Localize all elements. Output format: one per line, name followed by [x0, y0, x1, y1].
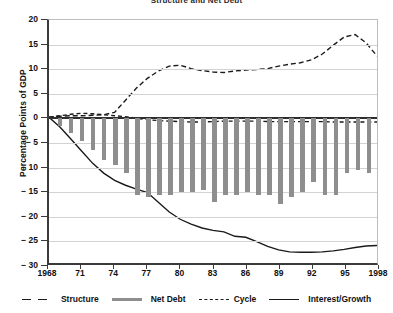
net-debt-bar	[245, 118, 250, 192]
y-axis-tick-label: 5	[8, 88, 38, 98]
y-axis-tick-label: − 15	[8, 186, 38, 196]
y-axis-tick-mark	[41, 93, 47, 94]
legend-swatch-cycle-icon	[199, 295, 229, 304]
net-debt-bar	[135, 118, 140, 194]
legend-swatch-interest-growth-icon	[269, 295, 303, 304]
y-axis-tick-mark	[41, 19, 47, 20]
net-debt-bar	[58, 118, 63, 125]
gridline	[49, 45, 377, 46]
y-axis-tick-mark	[41, 167, 47, 168]
y-axis-tick-label: 15	[8, 39, 38, 49]
y-axis-tick-label: − 20	[8, 211, 38, 221]
y-axis-tick-label: − 5	[8, 137, 38, 147]
net-debt-bar	[201, 118, 206, 189]
y-axis-tick-mark	[41, 44, 47, 45]
chart-legend: Structure Net Debt Cycle Interest/Growth	[0, 291, 393, 307]
x-axis-ticks: 19687174778083868992951998	[0, 268, 393, 284]
gridline	[49, 69, 377, 70]
net-debt-bar	[113, 118, 118, 165]
legend-swatch-structure-icon	[22, 295, 56, 304]
x-axis-tick-label: 74	[108, 268, 117, 278]
y-axis-tick-label: 20	[8, 14, 38, 24]
x-axis-tick-label: 86	[241, 268, 250, 278]
x-axis-tick-mark	[279, 265, 280, 269]
x-axis-tick-mark	[179, 265, 180, 269]
x-axis-tick-label: 89	[274, 268, 283, 278]
net-debt-bar	[168, 118, 173, 194]
net-debt-bar	[124, 118, 129, 172]
x-axis-tick-label: 83	[208, 268, 217, 278]
legend-label-interest-growth: Interest/Growth	[308, 294, 371, 304]
y-axis-tick-label: − 25	[8, 235, 38, 245]
x-axis-tick-label: 1968	[38, 268, 57, 278]
series-line-cycle	[49, 35, 377, 118]
net-debt-bar	[190, 118, 195, 192]
legend-label-structure: Structure	[61, 294, 99, 304]
gridline	[49, 94, 377, 95]
net-debt-bar	[300, 118, 305, 192]
y-axis-ticks: 20151050− 5− 10− 15− 20− 25− 30	[6, 0, 38, 313]
y-axis-tick-mark	[41, 216, 47, 217]
plot-area	[47, 19, 378, 265]
legend-item-cycle: Cycle	[199, 294, 257, 304]
net-debt-bar	[69, 118, 74, 133]
x-axis-tick-mark	[246, 265, 247, 269]
gridline	[49, 217, 377, 218]
legend-label-net-debt: Net Debt	[151, 294, 186, 304]
net-debt-bar	[179, 118, 184, 192]
x-axis-tick-label: 71	[75, 268, 84, 278]
net-debt-bar	[356, 118, 361, 170]
x-axis-tick-label: 80	[175, 268, 184, 278]
chart-title: Structure and Net Debt	[0, 0, 393, 4]
x-axis-tick-mark	[312, 265, 313, 269]
legend-label-cycle: Cycle	[234, 294, 257, 304]
x-axis-tick-label: 1998	[369, 268, 388, 278]
x-axis-tick-mark	[47, 265, 48, 269]
net-debt-bar	[212, 118, 217, 202]
x-axis-tick-mark	[146, 265, 147, 269]
x-axis-tick-label: 95	[340, 268, 349, 278]
net-debt-bar	[278, 118, 283, 204]
net-debt-bar	[311, 118, 316, 182]
net-debt-bar	[289, 118, 294, 197]
x-axis-tick-mark	[345, 265, 346, 269]
net-debt-bar	[146, 118, 151, 197]
net-debt-bar	[367, 118, 372, 172]
x-axis-tick-mark	[80, 265, 81, 269]
y-axis-tick-label: − 10	[8, 162, 38, 172]
net-debt-bar	[157, 118, 162, 194]
y-axis-tick-mark	[41, 68, 47, 69]
net-debt-bar	[345, 118, 350, 172]
net-debt-bar	[91, 118, 96, 150]
x-axis-tick-mark	[213, 265, 214, 269]
gridline	[49, 241, 377, 242]
y-axis-tick-label: 0	[8, 112, 38, 122]
legend-item-net-debt: Net Debt	[112, 294, 186, 304]
legend-item-structure: Structure	[22, 294, 99, 304]
x-axis-tick-label: 92	[307, 268, 316, 278]
net-debt-bar	[267, 118, 272, 194]
y-axis-tick-mark	[41, 117, 47, 118]
legend-swatch-net-debt-icon	[112, 295, 146, 304]
x-axis-tick-mark	[378, 265, 379, 269]
y-axis-tick-mark	[41, 191, 47, 192]
net-debt-bar	[223, 118, 228, 194]
net-debt-bar	[234, 118, 239, 194]
x-axis-tick-mark	[113, 265, 114, 269]
net-debt-bar	[80, 118, 85, 140]
x-axis-tick-label: 77	[142, 268, 151, 278]
chart-container: Structure and Net Debt Percentage Points…	[0, 0, 393, 313]
legend-item-interest-growth: Interest/Growth	[269, 294, 371, 304]
y-axis-tick-label: 10	[8, 63, 38, 73]
net-debt-bar	[334, 118, 339, 194]
net-debt-bar	[323, 118, 328, 194]
y-axis-tick-mark	[41, 240, 47, 241]
y-axis-tick-mark	[41, 142, 47, 143]
net-debt-bar	[102, 118, 107, 160]
net-debt-bar	[256, 118, 261, 194]
